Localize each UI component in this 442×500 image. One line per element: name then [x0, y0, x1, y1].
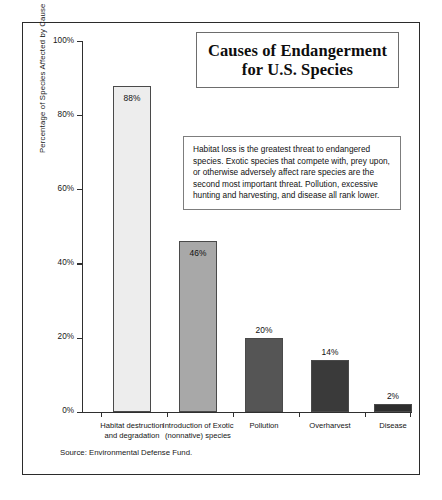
y-axis-title: Percentage of Species Affected by Cause — [38, 0, 47, 153]
x-label-exotic-species-line-2: (nonnative) species — [156, 431, 240, 441]
x-tick-1 — [167, 412, 168, 417]
annotation-text-box: Habitat loss is the greatest threat to e… — [183, 136, 401, 210]
bar-overharvest: 14% — [311, 360, 349, 412]
x-tick-4 — [365, 412, 366, 417]
bar-pollution: 20% — [245, 338, 283, 412]
y-tick-label-20: 20% — [58, 332, 74, 341]
bar-habitat-destruction: 88% — [113, 86, 151, 412]
y-tick-label-40: 40% — [58, 258, 74, 267]
source-note: Source: Environmental Defense Fund. — [60, 448, 192, 457]
chart-title-line-2: for U.S. Species — [242, 60, 353, 79]
plot-area: Percentage of Species Affected by Cause … — [82, 41, 412, 413]
bar-value-disease: 2% — [361, 391, 425, 401]
y-tick-label-60: 60% — [58, 184, 74, 193]
chart-title-line-1: Causes of Endangerment — [208, 41, 387, 60]
annotation-text: Habitat loss is the greatest threat to e… — [193, 144, 392, 202]
y-tick-label-80: 80% — [58, 110, 74, 119]
bar-value-exotic-species: 46% — [180, 248, 216, 258]
x-tick-3 — [299, 412, 300, 417]
x-label-disease: Disease — [351, 421, 435, 431]
y-tick-label-100: 100% — [53, 36, 74, 45]
bar-disease: 2% — [374, 404, 412, 411]
y-axis-line — [82, 41, 83, 413]
x-tick-2 — [233, 412, 234, 417]
bar-value-overharvest: 14% — [298, 347, 362, 357]
x-axis-line — [82, 412, 412, 413]
figure-frame: Causes of Endangerment for U.S. Species … — [22, 22, 420, 475]
bar-value-habitat-destruction: 88% — [114, 93, 150, 103]
x-tick-5 — [410, 412, 411, 417]
chart-title-box: Causes of Endangerment for U.S. Species — [196, 32, 399, 88]
bar-value-pollution: 20% — [232, 325, 296, 335]
x-tick-0 — [101, 412, 102, 417]
bar-exotic-species: 46% — [179, 241, 217, 412]
x-label-disease-line-1: Disease — [351, 421, 435, 431]
y-tick-label-0: 0% — [62, 406, 74, 415]
